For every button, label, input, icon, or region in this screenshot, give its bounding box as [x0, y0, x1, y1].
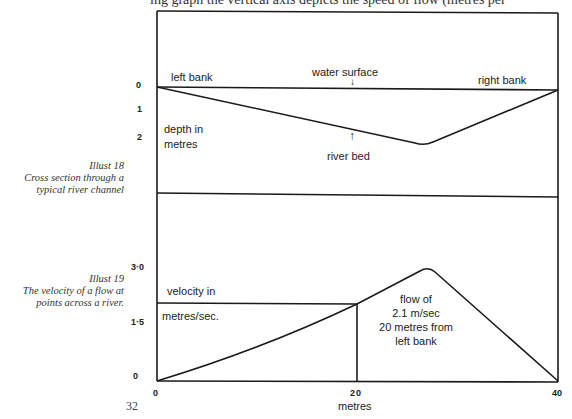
left-bank-label: left bank — [171, 71, 213, 83]
flow-annotation-line3: 20 metres from — [368, 320, 464, 334]
illust19-caption-line1: The velocity of a flow at — [0, 285, 124, 297]
water-surface-arrow-icon: ↓ — [350, 76, 355, 87]
illust18-caption: Illust 18 Cross section through a typica… — [0, 160, 124, 196]
distance-axis-label: metres — [338, 400, 372, 412]
velocity-label-line2: metres/sec. — [162, 310, 219, 322]
velocity-reading-line — [157, 303, 357, 304]
river-bed-label: river bed — [327, 150, 370, 162]
distance-tick-20: 20 — [350, 388, 362, 398]
illust18-caption-line1: Cross section through a — [0, 172, 124, 184]
illust19-caption-title: Illust 19 — [0, 273, 124, 285]
velocity-x-axis — [157, 381, 558, 382]
page-number: 32 — [126, 399, 138, 414]
river-bed-profile — [157, 87, 558, 144]
flow-annotation-line4: left bank — [368, 334, 464, 348]
water-surface-label: water surface — [312, 66, 378, 78]
velocity-tick-1-5: 1·5 — [131, 317, 144, 327]
illust19-caption-line2: points across a river. — [0, 297, 124, 309]
velocity-tick-3: 3·0 — [131, 262, 144, 272]
velocity-tick-0: 0 — [133, 371, 138, 381]
panel-divider — [157, 193, 558, 197]
depth-label-line1: depth in — [164, 123, 203, 135]
illust19-caption: Illust 19 The velocity of a flow at poin… — [0, 273, 124, 309]
distance-tick-40: 40 — [552, 388, 562, 398]
flow-annotation-line1: flow of — [368, 292, 464, 306]
distance-tick-0: 0 — [153, 388, 158, 398]
water-surface-line — [157, 87, 558, 90]
illust18-caption-title: Illust 18 — [0, 160, 124, 172]
depth-tick-2: 2 — [137, 132, 142, 142]
illust18-caption-line2: typical river channel — [0, 184, 124, 196]
depth-label-line2: metres — [164, 138, 198, 150]
right-bank-label: right bank — [478, 74, 526, 86]
depth-tick-1: 1 — [137, 104, 142, 114]
flow-annotation-line2: 2.1 m/sec — [368, 306, 464, 320]
frame-top — [157, 11, 558, 13]
depth-tick-0: 0 — [136, 80, 141, 90]
diagram-graphics — [0, 0, 572, 419]
river-bed-arrow-icon: ↑ — [349, 129, 355, 143]
velocity-label-line1: velocity in — [167, 285, 215, 297]
flow-annotation: flow of 2.1 m/sec 20 metres from left ba… — [368, 292, 464, 348]
